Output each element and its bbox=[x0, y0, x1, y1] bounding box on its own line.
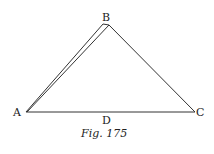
label-c: C bbox=[196, 106, 204, 119]
segment-ab bbox=[27, 25, 109, 112]
label-d: D bbox=[102, 114, 111, 127]
segment-bc bbox=[109, 25, 195, 112]
label-b: B bbox=[102, 11, 110, 24]
segment-ab-outer bbox=[26, 24, 103, 112]
label-a: A bbox=[12, 106, 22, 119]
segment-b-cap bbox=[103, 24, 109, 25]
geometry-figure: A B C D Fig. 175 bbox=[0, 0, 214, 154]
figure-caption: Fig. 175 bbox=[80, 127, 127, 140]
